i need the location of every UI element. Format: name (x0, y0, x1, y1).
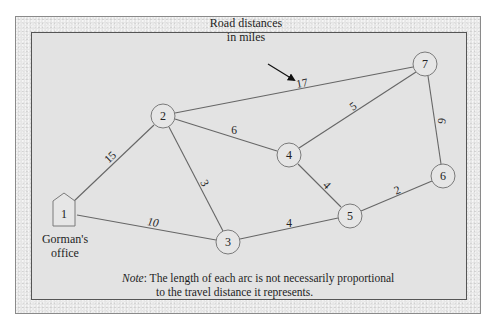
node-label-3: 3 (225, 235, 231, 249)
node-label-2: 2 (160, 109, 166, 123)
edge-weight-2-4: 6 (231, 124, 237, 136)
node-6: 6 (431, 164, 455, 188)
node-5: 5 (338, 204, 362, 228)
note-line-1: The length of each arc is not necessaril… (147, 272, 394, 284)
node-4: 4 (277, 143, 301, 167)
note-line-2: to the travel distance it represents. (122, 285, 394, 299)
node-2: 2 (151, 104, 175, 128)
edge-weight-1-3: 10 (146, 215, 160, 229)
edge-weight-1-2: 15 (102, 149, 119, 166)
edge-weight-2-3: 3 (198, 178, 211, 189)
node-label-7: 7 (422, 57, 428, 71)
edge-2-4 (175, 119, 277, 151)
node-1-gormans-office: 1 (53, 193, 75, 226)
office-label: Gorman's office (36, 232, 94, 260)
note-key: Note (122, 272, 144, 284)
office-label-line-1: Gorman's (36, 232, 94, 246)
edge-2-7 (175, 67, 413, 113)
node-label-6: 6 (440, 169, 446, 183)
edge-weight-2-7: 17 (295, 76, 309, 90)
edge-weight-6-7: 6 (436, 117, 449, 125)
node-7: 7 (413, 52, 437, 76)
edge-weight-3-5: 4 (286, 217, 292, 229)
node-label-5: 5 (347, 209, 353, 223)
node-label-1: 1 (61, 207, 67, 221)
office-label-line-2: office (36, 246, 94, 260)
edge-2-3 (169, 127, 223, 231)
legend-arrow-icon (268, 64, 294, 80)
edge-4-5 (298, 164, 341, 207)
edge-weight-5-6: 2 (392, 183, 402, 196)
edge-weight-4-5: 4 (321, 179, 334, 192)
edge-1-3 (77, 215, 216, 240)
node-3: 3 (216, 230, 240, 254)
legend-line-2: in miles (186, 30, 306, 44)
legend-line-1: Road distances (186, 16, 306, 30)
edge-1-2 (72, 125, 154, 203)
node-label-4: 4 (286, 148, 292, 162)
legend-caption: Road distances in miles (186, 16, 306, 44)
note-text: Note: The length of each arc is not nece… (122, 271, 394, 299)
